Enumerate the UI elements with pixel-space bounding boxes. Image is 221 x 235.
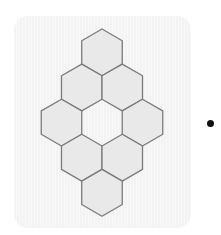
bullet-dot bbox=[207, 120, 214, 127]
hexagon-ring bbox=[0, 0, 221, 235]
